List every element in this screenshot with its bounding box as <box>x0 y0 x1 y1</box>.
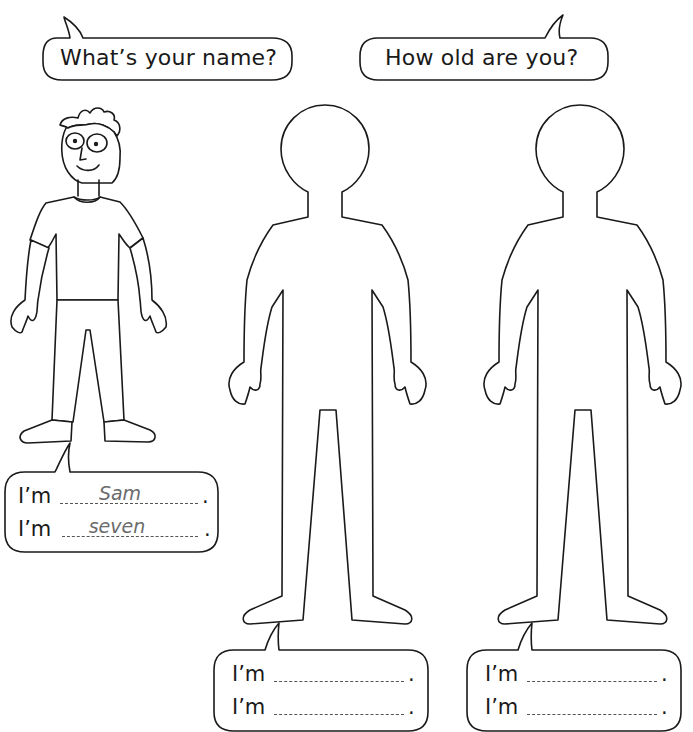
answer-prefix: I’m <box>232 662 265 686</box>
answer-blank-name-1[interactable] <box>274 681 404 682</box>
answer-line-name: I’m . <box>232 658 422 688</box>
answer-line-age: I’m . <box>485 691 675 721</box>
blank-figure-outline-2 <box>484 105 681 624</box>
answer-period: . <box>661 695 668 719</box>
blank-figure-outline-1 <box>229 105 426 624</box>
example-boy-figure <box>11 108 166 443</box>
worksheet-artwork <box>0 0 693 732</box>
answer-line-name: I’m . <box>485 658 675 688</box>
answer-blank-age-2[interactable] <box>527 714 657 715</box>
answer-prefix: I’m <box>18 517 51 541</box>
answer-prefix: I’m <box>232 695 265 719</box>
answer-line-age: I’m . <box>232 691 422 721</box>
answer-value: seven <box>62 515 172 537</box>
answer-blank-name-2[interactable] <box>527 681 657 682</box>
answer-period: . <box>204 517 211 541</box>
answer-line-name: I’m Sam . <box>18 480 208 510</box>
answer-period: . <box>202 484 209 508</box>
question-age: How old are you? <box>385 45 578 70</box>
answer-period: . <box>408 662 415 686</box>
answer-blank-age-1[interactable] <box>274 714 404 715</box>
answer-period: . <box>408 695 415 719</box>
answer-value: Sam <box>60 482 180 504</box>
question-name: What’s your name? <box>60 45 277 70</box>
answer-line-age: I’m seven . <box>18 513 208 543</box>
answer-prefix: I’m <box>18 484 51 508</box>
answer-prefix: I’m <box>485 662 518 686</box>
answer-period: . <box>661 662 668 686</box>
answer-prefix: I’m <box>485 695 518 719</box>
